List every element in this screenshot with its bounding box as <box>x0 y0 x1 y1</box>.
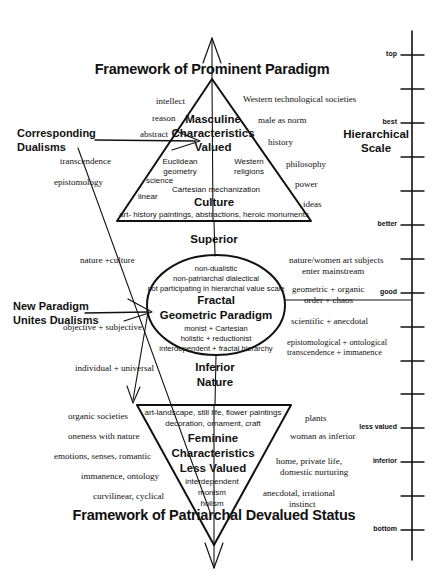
term-linear: linear <box>138 193 158 202</box>
scale-label-inferior: inferior <box>373 457 397 465</box>
term-transcendence-plus-immanence: transcendence + immanence <box>287 348 382 357</box>
lower-top-line-1: art-landscape, still life, flower painti… <box>145 409 282 418</box>
term-epistomology: epistomology <box>54 178 103 188</box>
circle-line-1: non-dualistic <box>195 265 238 273</box>
circle-line-4: monist + Cartesian <box>184 325 248 333</box>
term-philosophy: philosophy <box>286 160 326 170</box>
scale-label-top: top <box>386 50 397 58</box>
callout-corresponding-dualisms-line2: Dualisms <box>17 141 96 155</box>
callout-corresponding-dualisms-line1: Corresponding <box>17 127 96 141</box>
term-science: science <box>146 177 173 186</box>
term-oneness-with-nature: oneness with nature <box>68 432 139 442</box>
term-nature-plus-culture: nature +culture <box>80 256 135 266</box>
scale-label-best: best <box>383 118 397 126</box>
upper-heading-line1: Masculine <box>185 113 241 125</box>
lower-inner-holism: holism <box>200 500 223 509</box>
circle-line-3: not participating in hierarchal value sc… <box>147 285 284 293</box>
term-nature-women-art-subjects: nature/women art subjects <box>289 256 383 266</box>
upper-base-line: art- history paintings, abstractions, he… <box>119 211 309 220</box>
lower-heading-line2: Characteristics <box>171 447 254 459</box>
connector-superior: Superior <box>190 233 237 245</box>
term-epistomological-plus-ontological: epistomological + ontological <box>287 338 387 347</box>
term-geometric-plus-organic: geometric + organic <box>292 285 364 295</box>
term-organic-societies: organic societies <box>68 412 128 422</box>
page-title-top: Framework of Prominent Paradigm <box>95 62 330 78</box>
term-plants: plants <box>305 414 327 424</box>
term-transcendence: transcendence <box>60 157 111 167</box>
scale-title: Hierarchical Scale <box>343 128 409 156</box>
page-title-bottom: Framework of Patriarchal Devalued Status <box>73 508 356 524</box>
upper-inner-cartesian-mechanization: Cartesian mechanization <box>172 186 260 195</box>
lower-heading-line3: Less Valued <box>180 462 246 474</box>
term-intellect: intellect <box>156 97 185 107</box>
upper-inner-euclidean: Euclidean <box>162 158 197 167</box>
term-emotions-senses-romantic: emotions, senses, romantic <box>54 452 151 462</box>
upper-heading-line3: Valued <box>194 141 231 153</box>
scale-title-line1: Hierarchical <box>343 128 409 142</box>
term-instinct: instinct <box>289 500 316 510</box>
scale-label-less-valued: less valued <box>359 423 397 431</box>
circle-line-5: holistic + reductionist <box>181 335 252 343</box>
term-history: history <box>268 138 293 148</box>
callout-corresponding-dualisms: Corresponding Dualisms <box>17 127 96 155</box>
term-male-as-norm: male as norm <box>258 116 307 126</box>
upper-inner-religions: religions <box>234 168 264 177</box>
term-enter-mainstream: enter mainstream <box>302 267 364 277</box>
circle-heading-1: Fractal <box>197 294 235 306</box>
lower-heading-line1: Feminine <box>188 432 238 444</box>
lower-top-line-2: decoration, ornament, craft <box>165 420 261 429</box>
term-anecdotal-irrational: anecdotal, irrational <box>263 489 335 499</box>
upper-inner-western: Western <box>234 158 264 167</box>
term-immanence-ontology: immanence, ontology <box>81 472 159 482</box>
circle-line-6: interdependent + fractal hierarchy <box>159 345 272 353</box>
circle-heading-2: Geometric Paradigm <box>160 309 272 321</box>
scale-title-line2: Scale <box>343 142 409 156</box>
upper-culture-label: Culture <box>194 196 234 208</box>
connector-nature: Nature <box>197 376 233 388</box>
term-curvilinear-cyclical: curvilinear, cyclical <box>93 492 164 502</box>
upper-heading-line2: Characteristics <box>171 127 254 139</box>
lower-inner-monism: monism <box>198 489 226 498</box>
term-abstract: abstract <box>140 130 168 140</box>
lower-inner-interdependent: interdependent <box>185 478 238 487</box>
term-domestic-nurturing: domestic nurturing <box>280 468 348 478</box>
term-scientific-plus-anecdotal: scientific + anecdotal <box>291 317 368 327</box>
connector-inferior: Inferior <box>195 361 235 373</box>
term-reason: reason <box>152 114 176 124</box>
term-individual-plus-universal: individual + universal <box>75 364 154 374</box>
term-power: power <box>295 180 318 190</box>
term-ideas: ideas <box>303 200 322 210</box>
circle-line-2: non-patriarchal dialectical <box>173 275 259 283</box>
term-home-private-life: home, private life, <box>276 457 342 467</box>
term-objective-plus-subjective: objective + subjective <box>63 323 142 333</box>
corresponding-dualisms-arrow-stem <box>95 140 196 141</box>
callout-new-paradigm-line1: New Paradigm <box>13 300 99 314</box>
scale-label-better: better <box>378 220 397 228</box>
diagram-canvas: Framework of Prominent Paradigm Framewor… <box>0 0 442 584</box>
term-order-plus-chaos: order + chaos <box>304 296 353 306</box>
scale-label-bottom: bottom <box>373 525 397 533</box>
scale-label-good: good <box>380 288 397 296</box>
term-woman-as-inferior: woman as inferior <box>290 432 355 442</box>
term-western-technological-societies: Western technological societies <box>243 95 356 105</box>
